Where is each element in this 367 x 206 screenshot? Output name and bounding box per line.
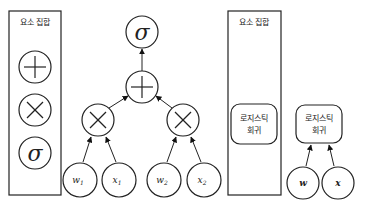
- product-node-1: [82, 104, 114, 136]
- logistic-regression-node: 로지스틱 회귀: [296, 105, 342, 143]
- svg-text:σ: σ: [27, 141, 43, 166]
- product-node-2: [167, 104, 199, 136]
- sigma-output-node: σ: [126, 16, 158, 48]
- right-element-set-panel: 요소 집합 로지스틱 회귀: [228, 11, 281, 195]
- input-node-w1: w1: [63, 163, 97, 197]
- times-element: [19, 94, 51, 126]
- svg-text:x: x: [334, 178, 341, 188]
- svg-text:로지스틱: 로지스틱: [305, 113, 333, 123]
- sigma-element: σ: [19, 137, 51, 169]
- svg-text:회귀: 회귀: [312, 125, 326, 135]
- logistic-regression-element: 로지스틱 회귀: [231, 104, 277, 144]
- diagram-canvas: 요소 집합 σ σ: [0, 0, 367, 206]
- input-node-w2: w2: [147, 163, 181, 197]
- compact-logistic-graph: 로지스틱 회귀 w x: [287, 105, 354, 199]
- input-node-x1: x1: [102, 163, 136, 197]
- input-node-x2: x2: [187, 163, 221, 197]
- computation-graph: σ w1 x1 w2 x2: [63, 16, 221, 197]
- sum-node: [126, 71, 158, 103]
- input-node-x-vector: x: [322, 167, 354, 199]
- left-element-set-panel: 요소 집합 σ: [9, 11, 61, 195]
- input-node-w-vector: w: [287, 167, 319, 199]
- svg-text:σ: σ: [134, 20, 150, 45]
- svg-text:로지스틱: 로지스틱: [240, 113, 268, 123]
- left-panel-title: 요소 집합: [20, 17, 52, 27]
- svg-text:w: w: [299, 178, 307, 188]
- right-panel-title: 요소 집합: [239, 17, 271, 27]
- plus-element: [19, 51, 51, 83]
- svg-text:회귀: 회귀: [247, 125, 261, 135]
